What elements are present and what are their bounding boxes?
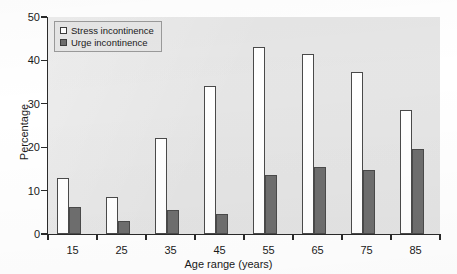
bar-chart-figure: 01020304050 1525354555657585 Percentage … bbox=[0, 0, 457, 274]
bar-urge-65 bbox=[314, 167, 326, 234]
bar-urge-55 bbox=[265, 175, 277, 234]
x-tick-label-35: 35 bbox=[164, 244, 176, 256]
legend-item-urge: Urge incontinence bbox=[60, 37, 154, 49]
bar-stress-15 bbox=[57, 178, 69, 234]
bar-stress-65 bbox=[302, 54, 314, 234]
y-tick-40 bbox=[41, 60, 47, 61]
y-tick-30 bbox=[41, 103, 47, 104]
y-tick-label-50: 50 bbox=[0, 11, 40, 23]
bar-stress-25 bbox=[106, 197, 118, 234]
x-tick-label-25: 25 bbox=[115, 244, 127, 256]
x-tick-label-45: 45 bbox=[213, 244, 225, 256]
x-tick-7 bbox=[390, 234, 391, 240]
x-tick-label-85: 85 bbox=[409, 244, 421, 256]
bar-urge-45 bbox=[216, 214, 228, 234]
bar-stress-45 bbox=[204, 86, 216, 234]
bar-stress-35 bbox=[155, 138, 167, 234]
bar-stress-55 bbox=[253, 47, 265, 234]
y-tick-20 bbox=[41, 147, 47, 148]
x-tick-6 bbox=[341, 234, 342, 240]
y-axis-line bbox=[47, 17, 48, 235]
legend-swatch-urge-icon bbox=[60, 39, 67, 46]
x-tick-1 bbox=[96, 234, 97, 240]
x-tick-end bbox=[439, 234, 440, 240]
legend-swatch-stress-icon bbox=[60, 27, 67, 34]
x-tick-label-75: 75 bbox=[360, 244, 372, 256]
bar-stress-85 bbox=[400, 110, 412, 234]
legend-label-urge: Urge incontinence bbox=[71, 37, 148, 49]
x-tick-2 bbox=[145, 234, 146, 240]
x-axis-label: Age range (years) bbox=[0, 258, 457, 270]
bar-urge-35 bbox=[167, 210, 179, 234]
x-tick-label-55: 55 bbox=[262, 244, 274, 256]
x-tick-4 bbox=[243, 234, 244, 240]
x-tick-5 bbox=[292, 234, 293, 240]
bar-urge-75 bbox=[363, 170, 375, 234]
bar-urge-85 bbox=[412, 149, 424, 234]
x-tick-label-65: 65 bbox=[311, 244, 323, 256]
bar-stress-75 bbox=[351, 72, 363, 234]
legend-item-stress: Stress incontinence bbox=[60, 25, 154, 37]
x-tick-3 bbox=[194, 234, 195, 240]
y-tick-label-40: 40 bbox=[0, 54, 40, 66]
x-tick-0 bbox=[47, 234, 48, 240]
legend-label-stress: Stress incontinence bbox=[71, 25, 154, 37]
y-tick-50 bbox=[41, 16, 47, 17]
chart-legend: Stress incontinence Urge incontinence bbox=[54, 21, 162, 52]
y-tick-label-0: 0 bbox=[0, 228, 40, 240]
y-tick-10 bbox=[41, 190, 47, 191]
bar-urge-25 bbox=[118, 221, 130, 234]
bar-urge-15 bbox=[69, 207, 81, 234]
y-tick-0 bbox=[41, 233, 47, 234]
y-axis-label: Percentage bbox=[18, 72, 30, 192]
x-tick-label-15: 15 bbox=[66, 244, 78, 256]
